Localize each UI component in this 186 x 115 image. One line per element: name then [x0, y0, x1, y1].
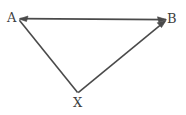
diagram-canvas: A B X	[0, 0, 186, 115]
line-A-to-X	[19, 20, 77, 92]
triangle-vector-graphic	[0, 0, 186, 115]
line-X-to-B	[78, 22, 164, 93]
line-B-to-A	[20, 19, 166, 20]
vertex-label-x: X	[73, 96, 82, 109]
vertex-label-a: A	[7, 11, 16, 24]
vertex-label-b: B	[167, 12, 177, 25]
